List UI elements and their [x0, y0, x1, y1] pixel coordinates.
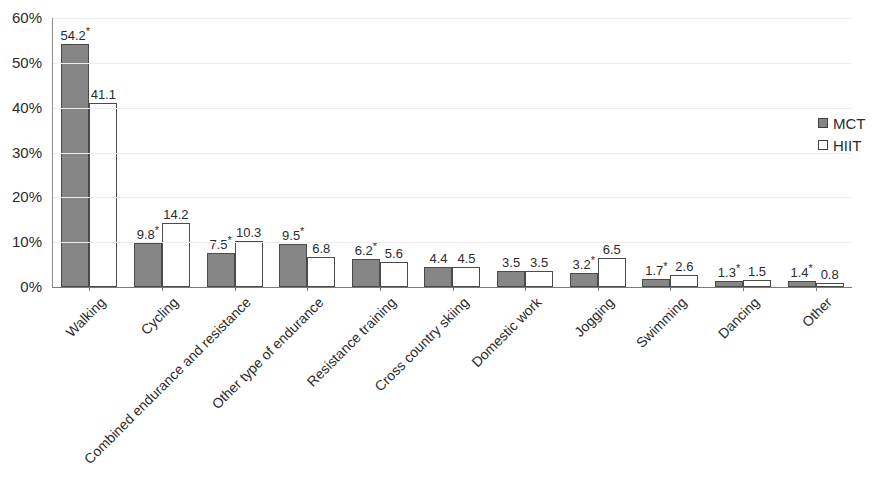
x-axis-category-label: Swimming	[438, 294, 690, 502]
bar-value-label: 3.5	[530, 256, 548, 270]
x-axis-tick	[816, 287, 817, 291]
bar-value-label: 4.5	[457, 252, 475, 266]
bar-mct[interactable]: 3.2*	[570, 273, 598, 287]
x-axis-tick	[162, 287, 163, 291]
x-axis-category-label: Walking	[0, 294, 109, 502]
bar-value-label: 6.8	[312, 242, 330, 256]
bar-value-label: 2.6	[675, 260, 693, 274]
x-axis-category-label: Other	[583, 294, 835, 502]
significance-marker: *	[300, 225, 304, 237]
gridline	[53, 108, 852, 109]
x-axis-category-label: Cross country skiing	[220, 294, 472, 502]
y-axis-tick-label: 50%	[12, 55, 42, 70]
bar-hiit[interactable]: 41.1	[89, 103, 117, 287]
y-axis-tick-label: 40%	[12, 100, 42, 115]
x-axis-tick	[380, 287, 381, 291]
significance-marker: *	[155, 224, 159, 236]
x-axis-tick	[307, 287, 308, 291]
bar-value-label: 1.4*	[790, 266, 812, 280]
bar-value-label: 1.5	[748, 265, 766, 279]
gridline	[53, 63, 852, 64]
bar-hiit[interactable]: 3.5	[525, 271, 553, 287]
bar-value-label: 9.8*	[137, 228, 159, 242]
bar-value-label: 7.5*	[209, 238, 231, 252]
bar-value-label: 54.2*	[61, 29, 91, 43]
x-axis-tick	[453, 287, 454, 291]
significance-marker: *	[591, 253, 595, 265]
y-axis-tick-label: 10%	[12, 234, 42, 249]
bar-mct[interactable]: 3.5	[497, 271, 525, 287]
chart-legend: MCTHIIT	[818, 112, 882, 156]
bar-hiit[interactable]: 6.8	[307, 257, 335, 287]
bar-hiit[interactable]: 14.2	[162, 223, 190, 287]
x-axis-category-label: Combined endurance and resistance	[2, 294, 254, 502]
legend-item-mct[interactable]: MCT	[818, 112, 882, 134]
bar-hiit[interactable]: 6.5	[598, 258, 626, 287]
x-axis-category-label: Domestic work	[293, 294, 545, 502]
bar-hiit[interactable]: 0.8	[816, 283, 844, 287]
significance-marker: *	[809, 261, 813, 273]
y-axis-tick-label: 30%	[12, 145, 42, 160]
legend-item-label: MCT	[833, 115, 866, 132]
x-axis-tick	[235, 287, 236, 291]
bar-value-label: 0.8	[821, 268, 839, 282]
bar-value-label: 1.7*	[645, 264, 667, 278]
bar-chart: 60%50%40%30%20%10%0% 54.2*41.19.8*14.27.…	[0, 0, 885, 502]
x-axis-category-label: Cycling	[0, 294, 181, 502]
bar-value-label: 10.3	[236, 226, 261, 240]
x-axis-tick	[525, 287, 526, 291]
x-axis-tick	[89, 287, 90, 291]
filled-square-icon	[818, 118, 828, 128]
bar-value-label: 4.4	[429, 252, 447, 266]
x-axis-category-label: Resistance training	[147, 294, 399, 502]
bar-mct[interactable]: 7.5*	[207, 253, 235, 287]
y-axis: 60%50%40%30%20%10%0%	[0, 0, 48, 300]
gridline	[53, 153, 852, 154]
bar-value-label: 1.3*	[718, 266, 740, 280]
bar-value-label: 3.2*	[573, 258, 595, 272]
bar-mct[interactable]: 6.2*	[352, 259, 380, 287]
gridline	[53, 197, 852, 198]
gridline	[53, 242, 852, 243]
bar-mct[interactable]: 4.4	[424, 267, 452, 287]
x-axis-tick	[743, 287, 744, 291]
significance-marker: *	[663, 260, 667, 272]
bar-value-label: 6.2*	[355, 244, 377, 258]
bar-value-label: 3.5	[502, 256, 520, 270]
bar-hiit[interactable]: 2.6	[670, 275, 698, 287]
bar-mct[interactable]: 54.2*	[61, 44, 89, 287]
gridline	[53, 18, 852, 19]
bar-value-label: 6.5	[603, 243, 621, 257]
bar-value-label: 41.1	[91, 88, 116, 102]
bar-mct[interactable]: 9.8*	[134, 243, 162, 287]
y-axis-tick-label: 0%	[20, 279, 42, 294]
bar-hiit[interactable]: 1.5	[743, 280, 771, 287]
significance-marker: *	[736, 262, 740, 274]
y-axis-tick-label: 60%	[12, 10, 42, 25]
legend-item-label: HIIT	[833, 137, 861, 154]
bar-mct[interactable]: 1.3*	[715, 281, 743, 287]
significance-marker: *	[86, 25, 90, 37]
bar-hiit[interactable]: 10.3	[235, 241, 263, 287]
x-axis-category-label: Dancing	[511, 294, 763, 502]
bar-mct[interactable]: 9.5*	[279, 244, 307, 287]
bar-hiit[interactable]: 5.6	[380, 262, 408, 287]
bar-mct[interactable]: 1.4*	[788, 281, 816, 287]
x-axis-line	[52, 287, 852, 288]
bar-value-label: 14.2	[163, 208, 188, 222]
open-square-icon	[818, 140, 828, 150]
significance-marker: *	[227, 234, 231, 246]
x-axis-category-label: Other type of endurance	[75, 294, 327, 502]
x-axis-tick	[670, 287, 671, 291]
bar-value-label: 5.6	[385, 247, 403, 261]
x-axis-tick	[598, 287, 599, 291]
x-axis-category-label: Jogging	[365, 294, 617, 502]
bar-mct[interactable]: 1.7*	[642, 279, 670, 287]
y-axis-tick-label: 20%	[12, 189, 42, 204]
bar-hiit[interactable]: 4.5	[452, 267, 480, 287]
